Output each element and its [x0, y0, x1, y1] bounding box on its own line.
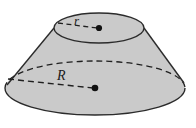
top-radius-label: r — [74, 14, 79, 27]
top-center-dot — [96, 25, 102, 31]
bottom-center-dot — [92, 85, 99, 92]
geometry-figure-frustum: r R — [0, 0, 196, 128]
bottom-radius-label: R — [57, 69, 66, 83]
frustum-drawing — [0, 0, 196, 128]
